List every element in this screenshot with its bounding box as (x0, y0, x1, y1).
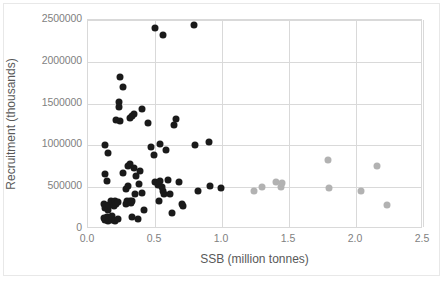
x-axis-tick-label: 0.0 (80, 232, 95, 244)
data-point (374, 162, 381, 169)
data-point (145, 119, 152, 126)
y-axis-tick-label: 500000 (48, 179, 82, 191)
gridline-horizontal (88, 62, 421, 63)
gridline-vertical (423, 20, 424, 227)
data-point (206, 182, 213, 189)
y-axis-tick-label: 1000000 (42, 137, 82, 149)
y-axis-title: Recruitment (thousands) (4, 58, 18, 189)
x-axis-tick-label: 1.5 (281, 232, 296, 244)
data-point (180, 202, 187, 209)
data-point (102, 141, 109, 148)
data-point (259, 184, 266, 191)
data-point (125, 182, 132, 189)
data-point (205, 139, 212, 146)
data-point (129, 198, 136, 205)
data-point (169, 210, 176, 217)
data-point (279, 180, 286, 187)
data-point (114, 216, 121, 223)
gridline-vertical (356, 20, 357, 227)
data-point (165, 176, 172, 183)
gridline-vertical (222, 20, 223, 227)
data-point (251, 188, 258, 195)
gridline-horizontal (88, 104, 421, 105)
x-axis-title: SSB (million tonnes) (87, 252, 422, 266)
data-point (383, 201, 390, 208)
x-axis-tick-label: 1.0 (214, 232, 229, 244)
data-point (194, 188, 201, 195)
plot-area (87, 19, 422, 228)
data-point (217, 185, 224, 192)
data-point (135, 180, 142, 187)
data-point (148, 144, 155, 151)
data-point (162, 146, 169, 153)
data-point (113, 116, 120, 123)
data-point (141, 206, 148, 213)
data-point (156, 198, 163, 205)
gridline-vertical (155, 20, 156, 227)
data-point (192, 141, 199, 148)
x-axis-tick-label: 2.0 (348, 232, 363, 244)
y-axis-title-wrap: Recruitment (thousands) (2, 19, 20, 228)
y-axis-tick-label: 1500000 (42, 96, 82, 108)
data-point (119, 170, 126, 177)
data-point (134, 216, 141, 223)
y-axis-tick-label: 2000000 (42, 54, 82, 66)
data-point (119, 83, 126, 90)
data-point (358, 188, 365, 195)
data-point (190, 22, 197, 29)
data-point (105, 149, 112, 156)
x-axis-tick-label: 2.5 (415, 232, 430, 244)
data-point (114, 199, 121, 206)
data-point (152, 25, 159, 32)
data-point (176, 179, 183, 186)
chart-figure: 05000001000000150000020000002500000 Recr… (0, 0, 443, 283)
x-axis-tick-labels: 0.00.51.01.52.02.5 (0, 232, 443, 248)
data-point (137, 167, 144, 174)
data-point (117, 73, 124, 80)
gridline-horizontal (88, 20, 421, 21)
gridline-horizontal (88, 145, 421, 146)
data-point (324, 156, 331, 163)
data-point (166, 190, 173, 197)
data-point (160, 32, 167, 39)
data-point (138, 190, 145, 197)
data-point (173, 115, 180, 122)
data-point (130, 110, 137, 117)
data-point (103, 177, 110, 184)
y-axis-tick-label: 2500000 (42, 12, 82, 24)
data-point (150, 151, 157, 158)
data-point (138, 105, 145, 112)
x-axis-tick-label: 0.5 (147, 232, 162, 244)
data-point (115, 103, 122, 110)
gridline-vertical (289, 20, 290, 227)
data-point (326, 185, 333, 192)
